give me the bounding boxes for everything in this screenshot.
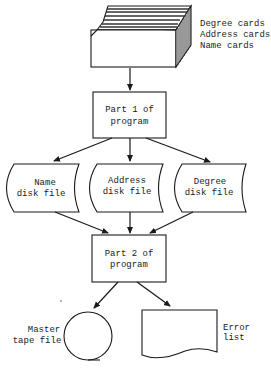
input-label-address-cards: Address cards xyxy=(200,30,270,40)
name-disk-file-shape xyxy=(7,164,80,212)
master-tape-file-shape xyxy=(64,312,112,360)
master-tape-label-line1: Master xyxy=(28,325,60,335)
master-tape-label-line2: tape file xyxy=(13,336,62,346)
scan-speck xyxy=(60,300,62,302)
name-disk-label-line2: disk file xyxy=(17,189,66,199)
part2-label-line1: Part 2 of xyxy=(105,249,154,259)
address-disk-label-line2: disk file xyxy=(103,187,152,197)
address-disk-label-line1: Address xyxy=(108,176,146,186)
error-list-label-line2: list xyxy=(223,333,245,343)
part1-label-line1: Part 1 of xyxy=(105,105,154,115)
degree-disk-label-line2: disk file xyxy=(185,188,234,198)
degree-disk-label-line1: Degree xyxy=(194,177,226,187)
edge-degree-disk-to-part2 xyxy=(150,212,193,233)
edge-part1-to-name-disk xyxy=(54,138,112,161)
edge-name-disk-to-part2 xyxy=(55,212,108,233)
edge-part1-to-degree-disk xyxy=(146,138,210,162)
input-label-name-cards: Name cards xyxy=(200,41,254,51)
part1-label-line2: program xyxy=(111,117,149,127)
part2-label-line2: program xyxy=(110,260,148,270)
name-disk-label-line1: Name xyxy=(34,178,56,188)
error-list-document-shape xyxy=(142,310,217,358)
part1-process-box xyxy=(93,92,166,138)
flowchart: Degree cards Address cards Name cards Pa… xyxy=(0,0,271,368)
card-deck-shape xyxy=(91,6,191,67)
edge-part2-to-master-tape xyxy=(94,282,118,308)
edge-part2-to-error-list xyxy=(137,282,170,306)
error-list-label-line1: Error xyxy=(223,323,250,333)
input-label-degree-cards: Degree cards xyxy=(200,19,265,29)
